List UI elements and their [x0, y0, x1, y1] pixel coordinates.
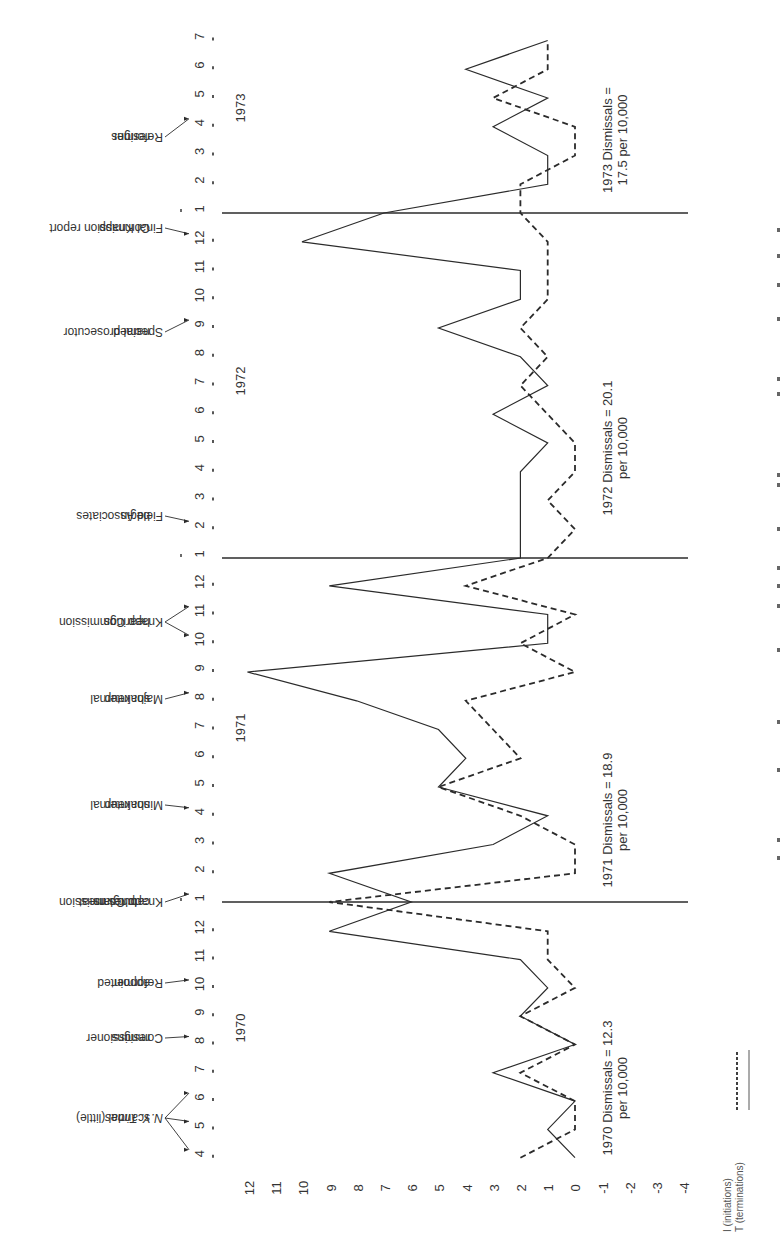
- arrow-head-icon: [184, 519, 189, 523]
- value-tick-label: 1: [541, 1184, 556, 1191]
- event-label: Special prosecutornamed: [64, 318, 189, 339]
- month-tick-label: 11: [192, 604, 207, 618]
- value-tick-label: 11: [269, 1181, 284, 1195]
- annotation-line-2: 17.5 per 10,000: [615, 94, 630, 185]
- month-tick-label: 6: [192, 751, 207, 758]
- value-axis: 1211109876543210-1-2-3-4: [242, 1181, 692, 1195]
- month-tick-label: 10: [192, 288, 207, 302]
- arrow-head-icon: [184, 232, 189, 236]
- legend-label: I (initiations): [722, 1178, 733, 1232]
- event-label: Reformerresigns: [111, 117, 189, 144]
- event-label-line: resigns: [111, 130, 150, 144]
- event-label: N.Y. Timesscandal (little): [76, 1091, 189, 1152]
- value-tick-label: -3: [650, 1182, 665, 1194]
- value-tick-label: 4: [460, 1184, 475, 1191]
- data-series: [247, 41, 575, 1158]
- month-tick-label: 2: [192, 866, 207, 873]
- value-tick-label: -2: [623, 1182, 638, 1194]
- annotation-line-2: per 10,000: [615, 1057, 630, 1119]
- value-tick-label: 12: [242, 1181, 257, 1195]
- month-tick-label: 1: [192, 205, 207, 212]
- value-tick-label: -1: [596, 1182, 611, 1194]
- value-tick-label: 5: [432, 1184, 447, 1191]
- month-tick-label: 9: [192, 664, 207, 671]
- event-label: Commissionerresigns: [86, 1031, 189, 1045]
- event-label-line: begin: [121, 509, 150, 523]
- event-arrow: [165, 622, 189, 635]
- event-label: Reformerappointed: [97, 976, 189, 990]
- year-labels: 1970197119721973: [233, 94, 248, 1043]
- event-label-line: shakeup: [104, 798, 150, 812]
- month-tick-label: 7: [192, 1065, 207, 1072]
- month-tick-label: 4: [192, 1150, 207, 1157]
- value-tick-label: 7: [378, 1184, 393, 1191]
- event-label-line: hearings: [104, 615, 150, 629]
- month-tick-label: 3: [192, 493, 207, 500]
- month-tick-label: 3: [192, 148, 207, 155]
- value-tick-label: 9: [324, 1184, 339, 1191]
- event-label: Field Associatesbegin: [76, 509, 189, 523]
- dismissals-chart: 4567891011121234567891011121234567891011…: [0, 0, 780, 1234]
- month-tick-label: 6: [192, 1093, 207, 1100]
- month-tick-label: 2: [192, 522, 207, 529]
- month-tick-label: 2: [192, 177, 207, 184]
- year-label: 1970: [233, 1014, 248, 1043]
- month-tick-label: 8: [192, 349, 207, 356]
- month-tick-label: 5: [192, 435, 207, 442]
- value-tick-label: 6: [405, 1184, 420, 1191]
- event-arrow: [165, 1093, 189, 1118]
- month-tick-label: 12: [192, 920, 207, 934]
- dismissal-annotations: 1970 Dismissals = 12.3per 10,0001971 Dis…: [600, 87, 630, 1155]
- legend: I (initiations)T (terminations): [722, 1050, 749, 1232]
- dismissal-annotation: 1971 Dismissals = 18.9per 10,000: [600, 753, 630, 888]
- month-tick-label: 7: [192, 378, 207, 385]
- month-tick-label: 6: [192, 62, 207, 69]
- month-tick-label: 12: [192, 575, 207, 589]
- event-annotations: N.Y. Timesscandal (little)Commissionerre…: [49, 117, 189, 1152]
- event-label: Minor internalshakeup: [90, 798, 189, 812]
- annotation-line-1: 1971 Dismissals = 18.9: [600, 753, 615, 888]
- arrow-head-icon: [184, 1035, 189, 1039]
- month-tick-label: 4: [192, 808, 207, 815]
- annotation-line-1: 1973 Dismissals =: [600, 87, 615, 193]
- value-tick-label: 0: [568, 1184, 583, 1191]
- event-label: Final KnappCommission report: [49, 221, 189, 236]
- event-label: Major internalshakeup: [90, 691, 189, 706]
- event-label-line: shakeup: [104, 692, 150, 706]
- annotation-line-2: per 10,000: [615, 789, 630, 851]
- annotation-line-2: per 10,000: [615, 417, 630, 479]
- event-label-line: Commission report: [49, 221, 150, 235]
- annotation-line-1: 1970 Dismissals = 12.3: [600, 1021, 615, 1156]
- value-tick-label: 8: [351, 1184, 366, 1191]
- month-tick-label: 7: [192, 33, 207, 40]
- month-tick-label: 12: [192, 231, 207, 245]
- month-tick-label: 4: [192, 119, 207, 126]
- month-tick-label: 1: [192, 550, 207, 557]
- event-label-line: named: [113, 325, 150, 339]
- dismissal-annotation: 1970 Dismissals = 12.3per 10,000: [600, 1021, 630, 1156]
- event-label: Knapp Commissionhearings: [59, 605, 189, 638]
- arrow-head-icon: [184, 1119, 189, 1123]
- month-tick-label: 3: [192, 837, 207, 844]
- value-tick-label: 3: [487, 1184, 502, 1191]
- month-tick-label: 10: [192, 632, 207, 646]
- event-label-line: burglars: [94, 895, 137, 909]
- month-tick-label: 5: [192, 90, 207, 97]
- month-tick-label: 8: [192, 693, 207, 700]
- month-tick-label: 10: [192, 977, 207, 991]
- value-tick-label: 2: [514, 1184, 529, 1191]
- event-arrow: [165, 119, 189, 137]
- legend-label: T (terminations): [734, 1162, 745, 1232]
- year-label: 1972: [233, 367, 248, 396]
- month-tick-label: 11: [192, 949, 207, 963]
- month-tick-label: 4: [192, 464, 207, 471]
- event-arrow: [165, 320, 189, 332]
- arrow-head-icon: [184, 691, 189, 695]
- event-label-line: scandal (little): [76, 1111, 150, 1125]
- event-arrow: [165, 607, 189, 623]
- month-tick-label: 7: [192, 722, 207, 729]
- dismissal-annotation: 1973 Dismissals =17.5 per 10,000: [600, 87, 630, 193]
- year-label: 1971: [233, 714, 248, 743]
- value-tick-label: -4: [677, 1182, 692, 1194]
- month-tick-label: 1: [192, 894, 207, 901]
